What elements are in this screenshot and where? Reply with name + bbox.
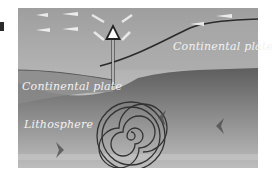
label-continental-plate-right: Continental plate xyxy=(173,40,272,53)
plate-tectonics-diagram: Continental plate Continental plate Lith… xyxy=(18,8,258,168)
label-lithosphere: Lithosphere xyxy=(24,118,93,131)
cropped-letter-mark xyxy=(0,22,4,31)
label-continental-plate-left: Continental plate xyxy=(22,80,122,93)
